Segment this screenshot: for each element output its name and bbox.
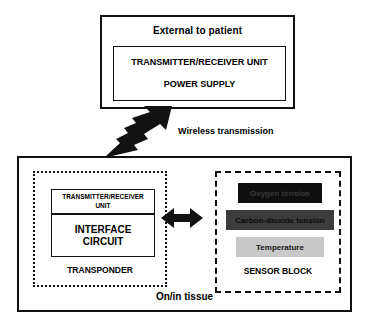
sensor-label-carbon-dioxide-tension: Carbon-dioxide tension [235, 216, 324, 225]
lightning-bolt-arrow-icon [106, 106, 178, 156]
sensor-label-temperature: Temperature [256, 243, 304, 252]
transponder-label: TRANSPONDER [35, 265, 165, 275]
transponder-transmitter-receiver-unit-label: TRANSMITTER/RECEIVER UNIT [62, 193, 144, 209]
external-to-patient-block: External to patient TRANSMITTER/RECEIVER… [100, 15, 295, 109]
sensor-block: Oxygen tension Carbon-dioxide tension Te… [215, 171, 341, 293]
interface-circuit-label: INTERFACE CIRCUIT [75, 224, 132, 248]
external-power-supply-label: POWER SUPPLY [114, 79, 285, 89]
sensor-bar-carbon-dioxide-tension: Carbon-dioxide tension [226, 210, 334, 230]
sensor-bar-temperature: Temperature [236, 237, 324, 257]
sensor-bar-oxygen-tension: Oxygen tension [238, 183, 322, 203]
external-unit-box: TRANSMITTER/RECEIVER UNIT POWER SUPPLY [113, 46, 286, 101]
transponder-transmitter-receiver-unit-box: TRANSMITTER/RECEIVER UNIT [51, 189, 155, 214]
external-block-title: External to patient [102, 25, 293, 36]
on-in-tissue-label: On/in tissue [19, 291, 350, 302]
interface-circuit-box: INTERFACE CIRCUIT [51, 214, 155, 257]
diagram-canvas: External to patient TRANSMITTER/RECEIVER… [0, 0, 369, 329]
wireless-transmission-label: Wireless transmission [178, 126, 273, 136]
transponder-block: TRANSMITTER/RECEIVER UNIT INTERFACE CIRC… [33, 171, 167, 287]
double-headed-arrow-icon [161, 206, 203, 230]
on-in-tissue-block: TRANSMITTER/RECEIVER UNIT INTERFACE CIRC… [17, 156, 352, 312]
sensor-block-label: SENSOR BLOCK [217, 266, 339, 276]
external-transmitter-receiver-unit-label: TRANSMITTER/RECEIVER UNIT [114, 57, 285, 67]
sensor-label-oxygen-tension: Oxygen tension [250, 189, 310, 198]
